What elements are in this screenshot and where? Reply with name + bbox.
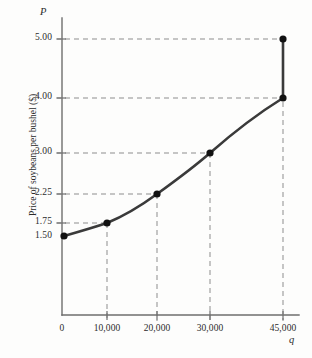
data-point-20000-225 [153,190,160,197]
supply-curve-path [64,39,283,236]
data-point-10000-175 [103,219,110,226]
x-tick-label-45000: 45,000 [256,323,310,333]
axis-tick-marks [57,39,283,320]
x-tick-label-10000: 10,000 [80,323,134,333]
axis-lines [62,18,299,315]
data-point-45000-500 [279,35,286,42]
data-point-0-150 [60,232,67,239]
y-tick-label-300: 3.00 [0,146,52,156]
data-point-markers [60,35,286,239]
supply-curve-chart: P q 5.00 4.00 3.00 2.25 1.75 1.50 0 10,0… [0,0,312,358]
y-tick-label-500: 5.00 [0,32,52,42]
data-point-45000-400 [279,94,286,101]
x-tick-label-0: 0 [48,323,76,333]
vertical-guide-lines [107,39,283,321]
y-tick-label-400: 4.00 [0,91,52,101]
y-tick-label-150: 1.50 [0,230,52,240]
data-point-30000-300 [206,149,213,156]
horizontal-guide-lines [56,39,283,223]
x-tick-label-30000: 30,000 [183,323,237,333]
y-axis-symbol: P [40,6,46,17]
x-tick-label-20000: 20,000 [130,323,184,333]
y-axis-title: Price of soybeans per bushel ($) [28,70,38,240]
x-axis-symbol: q [289,334,294,345]
y-tick-label-175: 1.75 [0,216,52,226]
chart-canvas [0,0,312,358]
y-tick-label-225: 2.25 [0,187,52,197]
